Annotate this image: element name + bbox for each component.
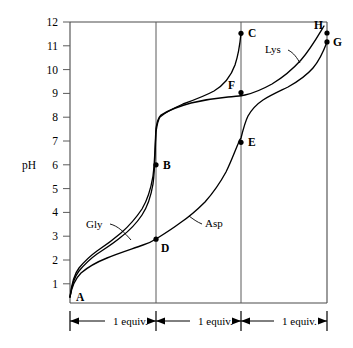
point-label-h: H — [314, 19, 323, 31]
titration-curve-chart: 12 11 10 9 8 7 6 5 4 3 2 1 pH — [0, 0, 353, 348]
arrow-left-1-icon — [70, 318, 79, 325]
point-label-d: D — [161, 242, 169, 254]
y-tick-label-10: 10 — [47, 64, 59, 76]
point-marker-h — [324, 30, 329, 35]
y-tick-label-1: 1 — [52, 278, 58, 290]
y-tick-label-4: 4 — [52, 206, 58, 218]
point-marker-e — [238, 140, 243, 145]
y-tick-label-9: 9 — [52, 87, 58, 99]
point-marker-c — [238, 31, 243, 36]
point-label-f: F — [228, 79, 235, 91]
point-label-e: E — [248, 136, 256, 148]
equiv-label-2: 1 equiv. — [198, 315, 233, 327]
point-label-c: C — [248, 27, 256, 39]
curve-annotation-lys: Lys — [265, 43, 300, 63]
plot-frame — [70, 22, 327, 303]
point-marker-b — [153, 162, 158, 167]
y-tick-label-8: 8 — [52, 111, 58, 123]
y-tick-label-7: 7 — [52, 135, 58, 147]
equiv-bracket-1: 1 equiv. — [70, 311, 156, 331]
y-axis-title: pH — [22, 159, 36, 172]
arrow-right-1-icon — [147, 318, 156, 325]
y-tick-label-12: 12 — [47, 16, 59, 28]
y-tick-label-6: 6 — [52, 159, 58, 171]
equiv-bracket-2: 1 equiv. — [156, 311, 241, 331]
annotation-point-labels: A B C D E F G H — [76, 19, 342, 303]
arrow-right-3-icon — [318, 318, 327, 325]
equiv-label-1: 1 equiv. — [113, 315, 148, 327]
y-tick-label-2: 2 — [52, 254, 58, 266]
point-label-g: G — [333, 36, 342, 48]
titration-chart-figure: 12 11 10 9 8 7 6 5 4 3 2 1 pH — [0, 0, 353, 348]
y-tick-label-3: 3 — [52, 230, 58, 242]
arrow-left-2-icon — [156, 318, 165, 325]
curve-group — [70, 26, 327, 297]
y-axis-ticks — [63, 22, 70, 284]
point-marker-f — [238, 90, 243, 95]
equiv-label-3: 1 equiv. — [282, 315, 317, 327]
equiv-bracket-3: 1 equiv. — [241, 311, 327, 331]
y-tick-label-5: 5 — [52, 183, 58, 195]
point-marker-g — [324, 39, 329, 44]
equivalence-bracket-axis: 1 equiv. 1 equiv. 1 equiv. — [70, 311, 327, 331]
y-axis-tick-labels: 12 11 10 9 8 7 6 5 4 3 2 1 — [47, 16, 59, 290]
leader-line-lys — [288, 50, 300, 63]
y-tick-label-11: 11 — [47, 40, 58, 52]
curve-annotation-gly: Gly — [86, 218, 131, 240]
curve-label-asp: Asp — [205, 217, 223, 229]
point-label-b: B — [163, 159, 171, 171]
point-label-a: A — [76, 291, 85, 303]
leader-line-asp — [189, 216, 202, 224]
arrow-right-2-icon — [232, 318, 241, 325]
curve-lys — [70, 26, 324, 297]
curve-annotation-asp: Asp — [189, 216, 223, 229]
curve-label-gly: Gly — [86, 218, 103, 230]
curve-asp — [70, 42, 327, 297]
arrow-left-3-icon — [241, 318, 250, 325]
curve-label-lys: Lys — [265, 43, 281, 55]
point-marker-d — [153, 237, 158, 242]
